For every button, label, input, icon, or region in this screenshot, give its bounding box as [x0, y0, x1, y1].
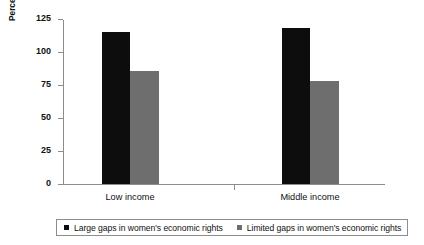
y-axis-title-line-1: Percentage gap between male and — [7, 0, 19, 21]
category-divider-tick — [234, 185, 235, 190]
y-axis-tick-label: 125 — [36, 13, 51, 23]
legend-label-limited-gaps: Limited gaps in women's economic rights — [247, 223, 401, 233]
legend-item-large-gaps: Large gaps in women's economic rights — [63, 223, 223, 233]
chart-legend: Large gaps in women's economic rights Li… — [56, 219, 408, 236]
bar — [310, 81, 339, 184]
x-axis-line — [63, 184, 385, 185]
y-axis-tick: 0 — [58, 184, 63, 185]
bar — [102, 32, 131, 184]
y-axis-line — [63, 20, 64, 185]
y-axis-tick: 100 — [58, 52, 63, 53]
plot-area: 0255075100125 Low incomeMiddle income — [63, 20, 385, 185]
y-axis-tick-label: 75 — [41, 79, 51, 89]
x-axis-category-label: Low income — [80, 192, 180, 202]
y-axis-tick: 75 — [58, 85, 63, 86]
y-axis-tick-label: 100 — [36, 46, 51, 56]
legend-item-limited-gaps: Limited gaps in women's economic rights — [236, 223, 401, 233]
y-axis-tick: 25 — [58, 151, 63, 152]
legend-label-large-gaps: Large gaps in women's economic rights — [74, 223, 223, 233]
y-axis-tick-label: 0 — [46, 178, 51, 188]
bar — [282, 28, 311, 184]
bar-chart: Percentage gap between male and female e… — [0, 0, 424, 245]
legend-swatch-icon-light — [236, 224, 243, 231]
y-axis-title: Percentage gap between male and female e… — [6, 0, 30, 38]
bar — [130, 71, 159, 184]
y-axis-tick-label: 25 — [41, 145, 51, 155]
y-axis-tick: 50 — [58, 118, 63, 119]
y-axis-tick: 125 — [58, 19, 63, 20]
y-axis-tick-label: 50 — [41, 112, 51, 122]
x-axis-category-label: Middle income — [260, 192, 360, 202]
legend-swatch-icon-dark — [63, 224, 70, 231]
